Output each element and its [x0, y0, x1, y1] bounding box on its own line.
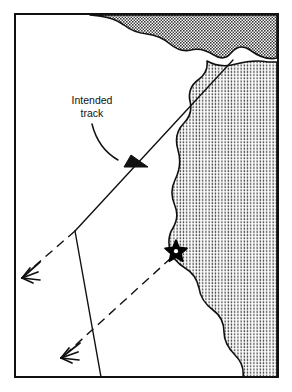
dr-arrowhead-upper-left: [22, 262, 40, 283]
land-north: [90, 15, 277, 59]
navigation-track-diagram: Intended track: [0, 0, 292, 392]
chart-canvas: Intended track: [0, 0, 292, 392]
intended-track-label-line2: track: [81, 107, 105, 119]
dr-arrowhead-lower-left: [61, 343, 80, 363]
bearing-line-solid: [75, 231, 101, 377]
intended-track-callout-arrow: [92, 124, 118, 160]
intended-track-label-line1: Intended: [72, 94, 113, 106]
dead-reckoning-dashed-lower: [68, 258, 171, 352]
land-east: [169, 61, 277, 377]
